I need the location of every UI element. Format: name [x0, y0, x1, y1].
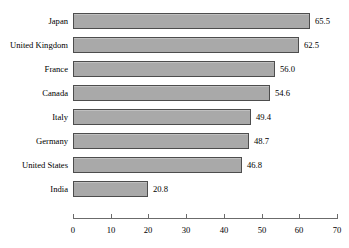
x-axis-tick-label: 0 — [58, 224, 88, 236]
bar-highlight — [74, 134, 248, 135]
bar-row: Canada54.6 — [0, 85, 349, 101]
x-axis-tick-label: 50 — [247, 224, 277, 236]
bar — [73, 133, 249, 149]
x-axis-tick-label: 60 — [284, 224, 314, 236]
category-label: Japan — [48, 13, 68, 29]
bar-highlight — [74, 158, 241, 159]
bar-highlight — [74, 86, 269, 87]
bar — [73, 13, 310, 29]
category-label: United States — [22, 157, 68, 173]
category-label: India — [50, 181, 68, 197]
bar — [73, 61, 275, 77]
bar-value-label: 20.8 — [153, 181, 168, 197]
bar — [73, 85, 270, 101]
bar-value-label: 65.5 — [315, 13, 330, 29]
bar-row: United Kingdom62.5 — [0, 37, 349, 53]
x-axis-tick — [224, 214, 225, 219]
bar-value-label: 54.6 — [275, 85, 290, 101]
bar-row: India20.8 — [0, 181, 349, 197]
x-axis-tick-label: 40 — [209, 224, 239, 236]
bar — [73, 109, 251, 125]
x-axis-tick-label: 10 — [96, 224, 126, 236]
bar — [73, 181, 148, 197]
x-axis-tick — [299, 214, 300, 219]
bar-highlight — [74, 110, 250, 111]
x-axis-tick-label: 30 — [171, 224, 201, 236]
x-axis-tick-label: 70 — [322, 224, 349, 236]
bar — [73, 157, 242, 173]
category-label: Germany — [36, 133, 68, 149]
bar-row: France56.0 — [0, 61, 349, 77]
x-axis-tick — [111, 214, 112, 219]
x-axis-tick — [148, 214, 149, 219]
category-label: Italy — [52, 109, 68, 125]
bar-chart: Japan65.5United Kingdom62.5France56.0Can… — [0, 0, 349, 248]
bar-value-label: 62.5 — [304, 37, 319, 53]
x-axis-tick — [73, 214, 74, 219]
bar-row: Italy49.4 — [0, 109, 349, 125]
bar-highlight — [74, 14, 309, 15]
bar-value-label: 49.4 — [256, 109, 271, 125]
x-axis-tick-label: 20 — [133, 224, 163, 236]
bar-value-label: 46.8 — [247, 157, 262, 173]
category-label: United Kingdom — [10, 37, 68, 53]
bar-row: United States46.8 — [0, 157, 349, 173]
bar-highlight — [74, 62, 274, 63]
bar — [73, 37, 299, 53]
x-axis-tick — [186, 214, 187, 219]
x-axis-tick — [337, 214, 338, 219]
bar-value-label: 56.0 — [280, 61, 295, 77]
x-axis-line — [73, 218, 337, 219]
bar-value-label: 48.7 — [254, 133, 269, 149]
category-label: Canada — [42, 85, 68, 101]
bar-row: Japan65.5 — [0, 13, 349, 29]
category-label: France — [45, 61, 68, 77]
x-axis-tick — [262, 214, 263, 219]
bar-highlight — [74, 182, 147, 183]
bar-row: Germany48.7 — [0, 133, 349, 149]
bar-highlight — [74, 38, 298, 39]
